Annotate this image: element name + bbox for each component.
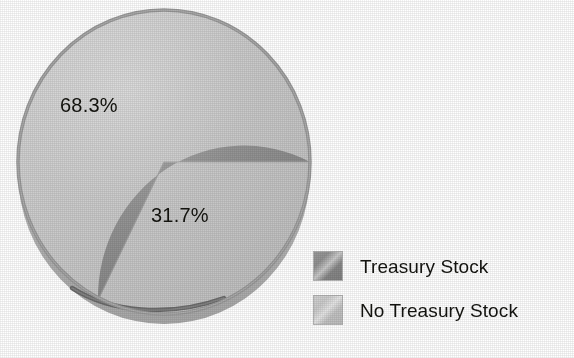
legend-label-no-treasury-stock: No Treasury Stock xyxy=(360,301,518,320)
slice-value-label-major: 68.3% xyxy=(60,94,118,117)
legend-label-treasury-stock: Treasury Stock xyxy=(360,257,488,276)
slice-value-label-minor: 31.7% xyxy=(151,204,209,227)
legend-swatch-icon-treasury-stock xyxy=(313,251,343,281)
pie-svg xyxy=(0,0,340,358)
legend-item-treasury-stock[interactable]: Treasury Stock xyxy=(313,251,518,281)
pie-graphic: 68.3% 31.7% xyxy=(0,0,340,358)
pie-chart-figure: 68.3% 31.7% Treasury Stock No Treasury S… xyxy=(0,0,574,358)
chart-legend: Treasury Stock No Treasury Stock xyxy=(313,251,518,325)
legend-swatch-icon-no-treasury-stock xyxy=(313,295,343,325)
legend-item-no-treasury-stock[interactable]: No Treasury Stock xyxy=(313,295,518,325)
